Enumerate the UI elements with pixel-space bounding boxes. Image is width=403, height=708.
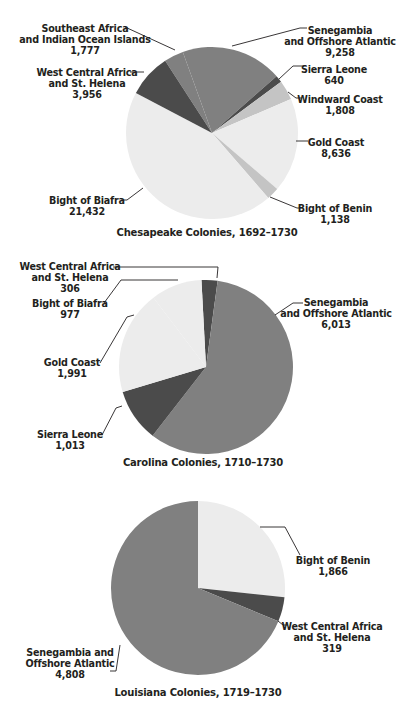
chart-title: Louisiana Colonies, 1719–1730 [114,687,281,698]
label-senegambia: Senegambia and Offshore Atlantic 4,808 [26,647,115,680]
label-bight-of-benin: Bight of Benin 1,138 [298,203,372,225]
label-gold-coast: Gold Coast 1,991 [44,357,100,379]
chart-title: Carolina Colonies, 1710–1730 [123,457,283,468]
label-senegambia: Senegambia and Offshore Atlantic 6,013 [280,297,392,330]
label-se-africa: Southeast Africa and Indian Ocean Island… [19,23,150,56]
label-west-central-africa: West Central Africa and St. Helena 319 [281,621,382,654]
label-bight-of-biafra: Bight of Biafra 977 [32,298,108,320]
label-west-central-africa: West Central Africa and St. Helena 306 [19,261,120,294]
label-bight-of-biafra: Bight of Biafra 21,432 [49,195,125,217]
carolina-pie-chart: West Central Africa and St. Helena 306 B… [0,245,403,485]
label-sierra-leone: Sierra Leone 1,013 [37,429,103,451]
label-senegambia: Senegambia and Offshore Atlantic 9,258 [284,25,396,58]
label-west-central-africa: West Central Africa and St. Helena 3,956 [36,67,137,100]
label-sierra-leone: Sierra Leone 640 [301,64,367,86]
label-windward-coast: Windward Coast 1,808 [297,94,382,116]
label-gold-coast: Gold Coast 8,636 [308,137,364,159]
chart-title: Chesapeake Colonies, 1692–1730 [116,227,297,238]
louisiana-pie-chart: Bight of Benin 1,866 West Central Africa… [0,485,403,708]
pie-slice-bight-of-benin [198,501,285,597]
label-bight-of-benin: Bight of Benin 1,866 [296,555,370,577]
chesapeake-pie-chart: Southeast Africa and Indian Ocean Island… [0,0,403,245]
